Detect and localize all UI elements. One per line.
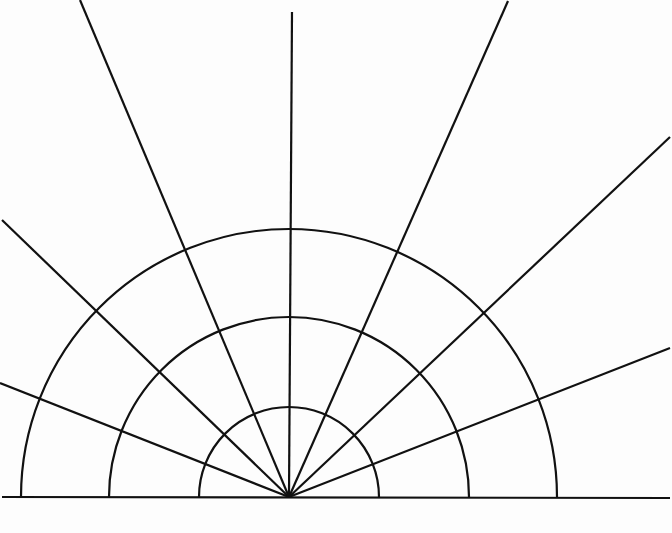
- rays-group: [0, 0, 670, 497]
- ray-vertical: [289, 12, 292, 497]
- ray-left-mid: [2, 220, 289, 497]
- baseline: [2, 497, 670, 498]
- ray-right-low: [289, 348, 670, 497]
- ray-left-high: [80, 0, 289, 497]
- ray-right-mid: [289, 137, 670, 497]
- polar-grid-diagram: [0, 0, 672, 533]
- ray-right-high: [289, 1, 508, 497]
- ray-left-low: [0, 383, 289, 497]
